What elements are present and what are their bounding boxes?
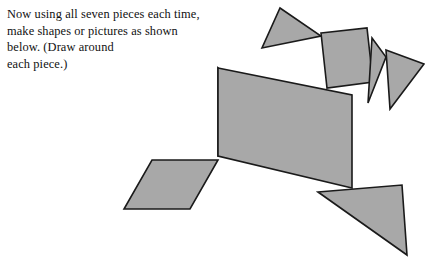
tangram-small-triangle-ear-left: [368, 38, 386, 103]
tangram-figure: [0, 0, 425, 257]
tangram-small-triangle-head: [262, 8, 321, 48]
tangram-parallelogram-foreleg: [124, 160, 218, 209]
tangram-square-neck: [321, 28, 373, 88]
tangram-medium-triangle-tail: [318, 185, 407, 255]
page-root: Now using all seven pieces each time, ma…: [0, 0, 425, 257]
tangram-medium-triangle-ear-right: [386, 50, 424, 109]
